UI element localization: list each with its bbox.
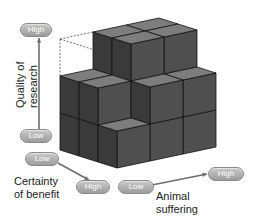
cube-front-face (131, 37, 164, 81)
quality-title-line-1: Quality of (14, 62, 27, 108)
quality-title-line-2: research (27, 62, 40, 108)
cube-left-face (93, 32, 112, 75)
cube-left-face (131, 81, 150, 124)
quality-axis-arrow-head-icon (37, 38, 41, 43)
suffering-axis-title: Animal suffering (156, 190, 198, 216)
cube-left-face (60, 113, 79, 156)
quality-high-pill: High (20, 23, 52, 37)
cube-front-face (150, 117, 183, 161)
cube-front-face (150, 80, 183, 124)
dashed-outline-edge (60, 32, 93, 39)
suffering-axis-arrow (152, 174, 207, 185)
cube-left-face (79, 119, 98, 162)
suffering-low-pill: Low (118, 180, 154, 194)
cube-left-face (60, 76, 79, 119)
quality-low-pill: Low (20, 129, 52, 143)
dashed-outline-edge (60, 39, 98, 51)
cube-front-face (183, 73, 216, 117)
certainty-axis-title: Certainty of benefit (14, 175, 59, 201)
cube-front-face (183, 110, 216, 154)
certainty-axis-arrow (58, 163, 89, 180)
cube-front-face (164, 30, 197, 74)
certainty-high-pill: High (76, 180, 110, 194)
suffering-high-pill: High (208, 167, 244, 181)
cube-left-face (79, 82, 98, 125)
cube-left-face (98, 125, 117, 168)
certainty-title-line-1: Certainty (14, 175, 59, 188)
suffering-title-line-1: Animal (156, 190, 198, 203)
cube-front-face (98, 81, 131, 125)
suffering-title-line-2: suffering (156, 203, 198, 216)
certainty-low-pill: Low (25, 152, 59, 166)
quality-axis-title: Quality of research (14, 62, 40, 108)
cube-diagram: High Low Quality of research Low High Ce… (0, 0, 256, 224)
cube-front-face (117, 124, 150, 168)
cube-left-face (112, 38, 131, 81)
certainty-title-line-2: of benefit (14, 188, 59, 201)
